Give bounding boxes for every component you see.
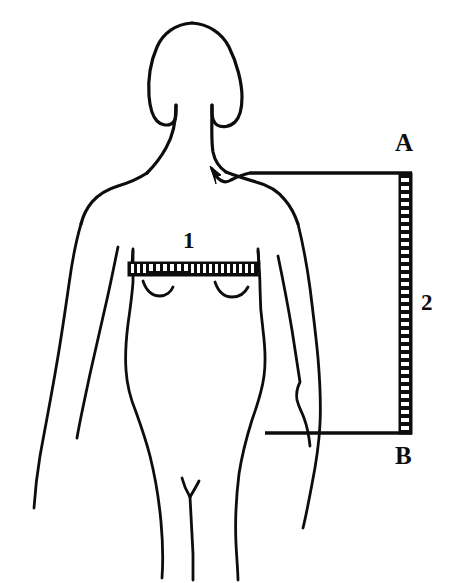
neck-right	[212, 105, 226, 172]
right-arm-outer	[298, 224, 320, 528]
head-outline	[149, 23, 192, 125]
head-outline-right	[192, 23, 242, 127]
left-arm-outer	[34, 224, 81, 508]
right-breast-curve	[215, 282, 248, 297]
label-point-b: B	[395, 443, 412, 468]
guide-line-a-group	[210, 166, 412, 184]
leg-separation-left	[182, 478, 190, 497]
torso-left-side	[126, 251, 163, 578]
tape-measure-vertical-icon	[399, 173, 412, 434]
leg-inseam	[190, 497, 193, 580]
neck-left	[147, 105, 176, 173]
left-shoulder	[81, 173, 147, 224]
torso-right-side	[236, 251, 265, 580]
body-measurement-diagram: A B 1 2	[0, 0, 449, 583]
neck-group	[147, 105, 226, 173]
right-arm-inner	[278, 256, 310, 446]
leg-separation-right	[190, 481, 199, 497]
right-shoulder	[226, 172, 298, 224]
label-point-a: A	[395, 130, 413, 155]
shoulders-group	[81, 172, 298, 224]
label-measurement-2: 2	[421, 291, 433, 314]
right-arm-group	[278, 224, 320, 528]
diagram-canvas	[0, 0, 449, 583]
left-arm-group	[34, 224, 118, 508]
head-outline-group	[149, 23, 242, 127]
legs-group	[182, 478, 199, 580]
torso-group	[126, 249, 265, 580]
left-arm-inner	[77, 247, 118, 438]
left-breast-curve	[143, 281, 173, 296]
label-measurement-1: 1	[183, 229, 195, 252]
tape-measure-horizontal-icon	[128, 262, 258, 276]
